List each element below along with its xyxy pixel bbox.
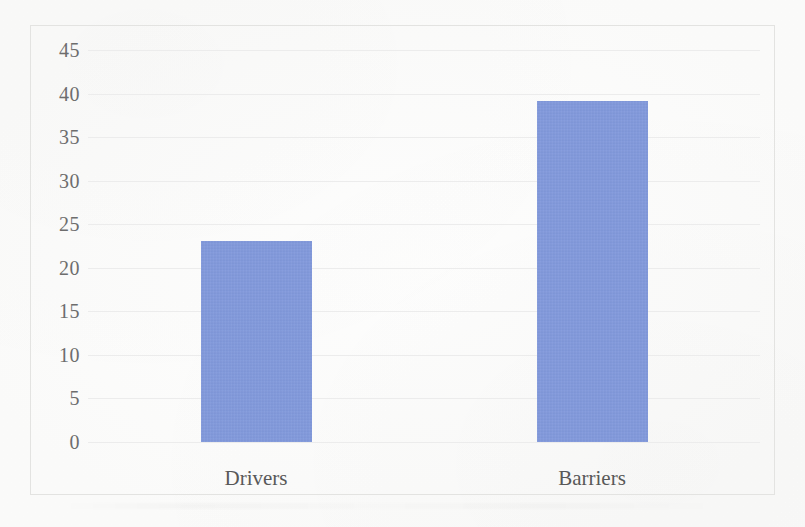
chart-page: 051015202530354045 DriversBarriers [0, 0, 805, 527]
x-axis-label-drivers: Drivers [225, 466, 288, 491]
x-axis-label-barriers: Barriers [558, 466, 626, 491]
x-axis-category-labels: DriversBarriers [0, 0, 805, 527]
